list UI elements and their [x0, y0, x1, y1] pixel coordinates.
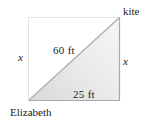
hypotenuse-length-label: 60 ft — [53, 45, 75, 56]
right-side-x-label: x — [123, 56, 128, 67]
left-side-x-label: x — [18, 52, 23, 63]
kite-triangle-diagram: kite x x 60 ft 25 ft Elizabeth — [0, 0, 148, 128]
elizabeth-label: Elizabeth — [10, 107, 52, 118]
base-length-label: 25 ft — [73, 89, 95, 100]
kite-label: kite — [123, 6, 140, 17]
